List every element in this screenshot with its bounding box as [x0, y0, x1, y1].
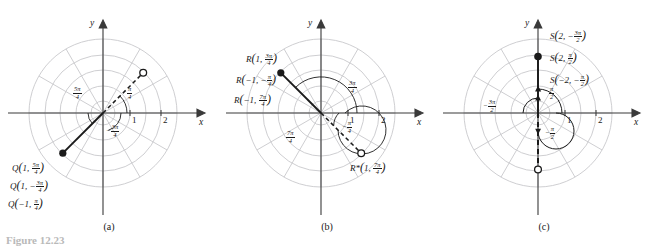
x-tick-2-c: 2 [598, 115, 603, 125]
point-marker-filled-b [277, 69, 284, 76]
point-label-r1-b: R(1, 3π4) [246, 51, 277, 67]
point-label-s3-c: S(−2, −π2) [550, 72, 589, 88]
point-marker-filled-c [534, 53, 542, 61]
y-axis-label-b: y [308, 18, 312, 28]
angle-label-neg3pi-4-a: −3π4 [106, 124, 119, 139]
angle-label-negpi-2-c: −π2 [545, 126, 555, 141]
x-axis-label-a: x [199, 117, 203, 127]
panel-caption-c: (c) [435, 221, 653, 232]
x-tick-1-a: 1 [132, 115, 137, 125]
panel-caption-b: (b) [218, 221, 436, 232]
point-label-s1-c: S(2, −3π2) [550, 28, 586, 44]
point-marker-open-b [358, 150, 365, 157]
x-tick-2-a: 2 [163, 115, 168, 125]
axes-b [226, 20, 423, 215]
panel-a: x y 1 2 5π4 π4 −3π4 Q(1, 5π4) Q(1, −3π4)… [0, 0, 218, 242]
point-marker-filled-a [59, 150, 66, 157]
angle-label-negpi-4-b: −π4 [342, 120, 352, 135]
x-axis-label-b: x [417, 117, 421, 127]
panel-b-graphic [218, 0, 436, 242]
x-tick-1-c: 1 [567, 115, 572, 125]
point-label-q2-a: Q(1, −3π4) [10, 178, 48, 194]
angle-label-3pi-4-b: 3π4 [348, 80, 357, 95]
point-label-q1-a: Q(1, 5π4) [12, 160, 44, 176]
panel-b: x y 1 2 3π4 7π4 −π4 R(1, 3π4) R(−1, −π4)… [218, 0, 436, 242]
panel-c: x y 1 2 −3π2 π2 −π2 S(2, −3π2) S(2, π2) … [435, 0, 653, 242]
point-label-rstar-b: R*(1, 7π4) [350, 160, 386, 176]
axes-c [443, 20, 640, 215]
point-marker-open-a [140, 69, 147, 76]
x-tick-2-b: 2 [381, 115, 386, 125]
panel-c-graphic [435, 0, 656, 242]
angle-label-pi-4-a: π4 [127, 86, 132, 101]
point-marker-open-c [535, 166, 542, 173]
x-axis-label-c: x [634, 117, 638, 127]
angle-label-neg3pi-2-c: −3π2 [483, 99, 496, 114]
y-axis-label-a: y [90, 18, 94, 28]
point-label-r2-b: R(−1, −π4) [236, 72, 276, 88]
point-label-r3-b: R(−1, 7π4) [234, 92, 271, 108]
y-axis-label-c: y [525, 18, 529, 28]
panel-caption-a: (a) [0, 221, 218, 232]
figure-caption: Figure 12.23 [6, 234, 64, 246]
point-label-s2-c: S(2, π2) [550, 50, 577, 66]
point-label-q3-a: Q(−1, π4) [8, 196, 43, 212]
angle-label-7pi-4-b: 7π4 [286, 130, 295, 145]
angle-label-5pi-4-a: 5π4 [73, 86, 82, 101]
